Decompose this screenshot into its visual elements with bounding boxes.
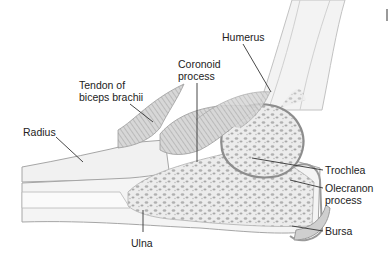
label-coronoid-process: Coronoid process [178,58,221,82]
label-bursa: Bursa [325,225,352,237]
elbow-diagram: Humerus Coronoid process Tendon of bicep… [0,0,392,266]
label-olecranon-line2: process [325,194,373,206]
label-humerus: Humerus [222,31,265,43]
label-tendon-of-biceps-brachii: Tendon of biceps brachii [79,79,143,103]
label-olecranon-line1: Olecranon [325,182,373,194]
label-olecranon-process: Olecranon process [325,182,373,206]
corner-mark [386,9,388,21]
label-ulna: Ulna [131,237,153,249]
label-tendon-line2: biceps brachii [79,91,143,103]
label-humerus-text: Humerus [222,31,265,43]
label-trochlea-text: Trochlea [325,164,365,176]
humerus-leader-line [243,44,271,92]
humerus-bone [258,0,345,110]
label-coronoid-line2: process [178,70,221,82]
label-coronoid-line1: Coronoid [178,58,221,70]
label-tendon-line1: Tendon of [79,79,143,91]
label-trochlea: Trochlea [325,164,365,176]
label-radius: Radius [23,126,56,138]
label-bursa-text: Bursa [325,225,352,237]
label-radius-text: Radius [23,126,56,138]
label-ulna-text: Ulna [131,237,153,249]
